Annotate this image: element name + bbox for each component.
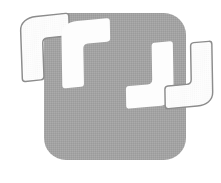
artwork-svg [0, 0, 221, 183]
quotation-mark-graphic: Quotation mark graphic Gray rounded squa… [0, 0, 221, 183]
